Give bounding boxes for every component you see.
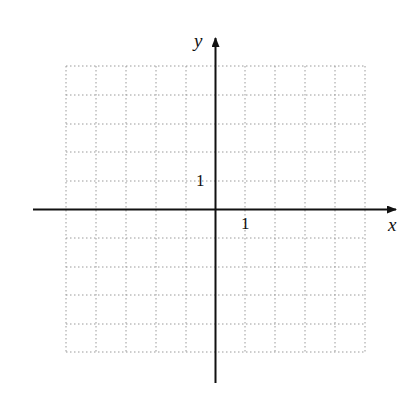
y-axis-label: y: [194, 30, 202, 52]
x-unit-label: 1: [241, 214, 250, 234]
y-unit-label: 1: [196, 171, 205, 191]
x-axis-label: x: [388, 214, 396, 236]
coordinate-grid: [0, 0, 417, 398]
